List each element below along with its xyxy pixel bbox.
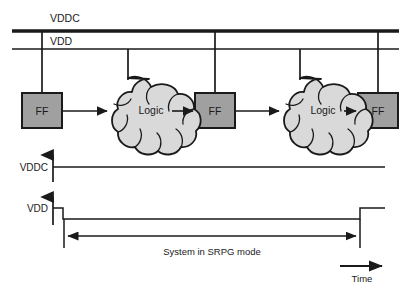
vdd-trace-label: VDD [27,203,48,214]
srpg-figure: VDDC VDD FF FF FF [0,0,411,292]
vddc-rail-label: VDDC [50,12,80,24]
ff-block-1[interactable]: FF [22,93,62,128]
ff-label: FF [209,105,222,117]
drop-wires-group [42,31,378,93]
srpg-span-group: System in SRPG mode [64,219,360,257]
vdd-rail-label: VDD [50,35,73,47]
ff-label: FF [372,105,385,117]
vdd-timing-trace: VDD [27,197,385,225]
srpg-span-label: System in SRPG mode [163,246,261,257]
logic-cloud-1[interactable]: Logic [112,77,201,155]
logic-label: Logic [310,104,335,116]
figure-root: VDDC VDD FF FF FF [0,0,411,292]
logic-cloud-2[interactable]: Logic [284,77,373,155]
time-axis-label: Time [352,273,373,284]
ff-label: FF [36,105,49,117]
time-axis-group: Time [340,266,382,284]
logic-label: Logic [138,104,163,116]
vddc-trace-label: VDDC [20,162,48,173]
vdd-waveform [53,208,385,219]
vddc-timing-trace: VDDC [20,155,385,182]
